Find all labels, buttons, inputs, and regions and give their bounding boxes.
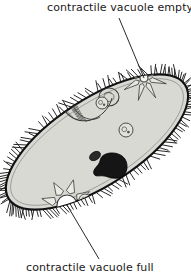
food-vacuole-5 xyxy=(34,235,44,245)
label-contractile-vacuole-full: contractile vacuole full xyxy=(26,262,154,274)
paramecium-diagram xyxy=(0,0,191,276)
food-vacuole-1 xyxy=(140,45,154,59)
leader-line-bottom xyxy=(67,205,99,259)
label-contractile-vacuole-empty: contractile vacuole empty xyxy=(47,2,191,14)
food-vacuole-2 xyxy=(96,97,108,109)
food-vacuole-3 xyxy=(119,123,133,137)
